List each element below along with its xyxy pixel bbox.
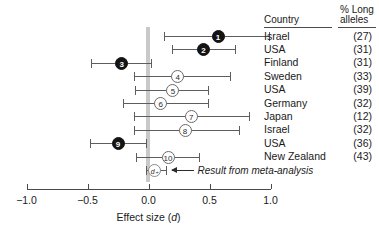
table-cell-country: USA xyxy=(264,43,338,55)
study-table: Country % Long alleles Israel(27)USA(31)… xyxy=(264,0,379,180)
table-cell-alleles: (39) xyxy=(338,83,372,95)
table-cell-alleles: (43) xyxy=(338,150,372,162)
column-header-alleles-line2: alleles xyxy=(340,14,368,25)
forest-plot-figure: 12345678910d₊Result from meta-analysis−1… xyxy=(0,0,379,228)
ci-cap-low xyxy=(123,99,124,108)
table-cell-country: New Zealand xyxy=(264,150,338,162)
ci-cap-high xyxy=(230,72,231,81)
study-marker[interactable]: 5 xyxy=(166,84,179,97)
ci-cap-high xyxy=(208,86,209,95)
summary-marker[interactable]: d₊ xyxy=(148,164,161,177)
meta-analysis-arrow xyxy=(172,170,194,171)
ci-cap-high xyxy=(208,99,209,108)
summary-ci-cap-low xyxy=(146,166,147,175)
ci-cap-low xyxy=(172,45,173,54)
table-cell-alleles: (27) xyxy=(338,30,372,42)
table-cell-alleles: (31) xyxy=(338,43,372,55)
summary-ci-cap-high xyxy=(166,166,167,175)
ci-cap-low xyxy=(135,86,136,95)
x-axis-tick-label: 0.0 xyxy=(129,194,169,206)
study-marker[interactable]: 7 xyxy=(185,110,198,123)
header-rule-country xyxy=(264,27,332,28)
ci-cap-low xyxy=(134,72,135,81)
x-axis-tick xyxy=(27,184,28,189)
ci-cap-high xyxy=(199,153,200,162)
study-marker[interactable]: 2 xyxy=(197,43,210,56)
x-axis-tick xyxy=(88,184,89,189)
x-axis-line xyxy=(27,189,271,190)
table-cell-alleles: (32) xyxy=(338,97,372,109)
table-cell-country: USA xyxy=(264,83,338,95)
study-marker[interactable]: 8 xyxy=(179,124,192,137)
table-cell-country: USA xyxy=(264,137,338,149)
table-cell-alleles: (33) xyxy=(338,70,372,82)
header-rule-alleles xyxy=(338,27,376,28)
study-marker[interactable]: 4 xyxy=(171,70,184,83)
table-cell-country: Sweden xyxy=(264,70,338,82)
x-axis-tick-label: −0.5 xyxy=(68,194,108,206)
x-axis-tick xyxy=(210,184,211,189)
ci-cap-high xyxy=(146,139,147,148)
study-marker[interactable]: 1 xyxy=(212,30,225,43)
table-cell-country: Israel xyxy=(264,123,338,135)
ci-cap-low xyxy=(136,153,137,162)
study-marker[interactable]: 3 xyxy=(115,57,128,70)
ci-cap-high xyxy=(249,112,250,121)
ci-cap-high xyxy=(239,126,240,135)
ci-cap-low xyxy=(164,32,165,41)
x-axis-title: Effect size (d) xyxy=(49,211,249,223)
x-axis-tick-label: 0.5 xyxy=(190,194,230,206)
table-cell-country: Germany xyxy=(264,97,338,109)
table-cell-alleles: (36) xyxy=(338,137,372,149)
table-cell-alleles: (12) xyxy=(338,110,372,122)
x-axis-tick xyxy=(271,184,272,189)
ci-cap-high xyxy=(151,59,152,68)
ci-cap-low xyxy=(90,139,91,148)
ci-cap-low xyxy=(91,59,92,68)
study-marker[interactable]: 6 xyxy=(154,97,167,110)
column-header-country: Country xyxy=(264,14,299,25)
ci-cap-low xyxy=(134,126,135,135)
x-axis-tick xyxy=(149,184,150,189)
study-marker[interactable]: 10 xyxy=(162,151,175,164)
x-axis-tick-label: −1.0 xyxy=(7,194,47,206)
study-marker[interactable]: 9 xyxy=(112,137,125,150)
table-cell-alleles: (31) xyxy=(338,56,372,68)
table-cell-country: Israel xyxy=(264,30,338,42)
x-axis-tick-label: 1.0 xyxy=(251,194,291,206)
ci-cap-high xyxy=(235,45,236,54)
table-cell-alleles: (32) xyxy=(338,123,372,135)
table-cell-country: Finland xyxy=(264,56,338,68)
table-cell-country: Japan xyxy=(264,110,338,122)
ci-cap-low xyxy=(134,112,135,121)
